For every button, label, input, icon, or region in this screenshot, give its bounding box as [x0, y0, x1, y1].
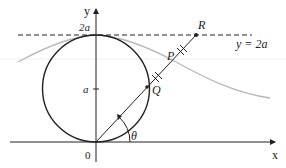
x-axis-label: x	[272, 148, 278, 162]
angle-arc	[120, 118, 131, 143]
a-label: a	[83, 83, 89, 95]
two-a-label: 2a	[79, 21, 91, 33]
point-R	[194, 33, 198, 37]
origin-label: 0	[85, 149, 91, 161]
theta-label: θ	[131, 129, 137, 143]
point-R-label: R	[197, 18, 206, 32]
point-Q	[145, 85, 149, 89]
line-equation-label: y = 2a	[235, 37, 267, 51]
witch-of-agnesi-diagram: y x 0 2a a y = 2a R P Q θ	[0, 0, 286, 168]
point-Q-label: Q	[152, 83, 161, 97]
point-P-label: P	[166, 49, 175, 63]
ray-OR	[96, 35, 196, 142]
y-axis-label: y	[84, 4, 90, 18]
